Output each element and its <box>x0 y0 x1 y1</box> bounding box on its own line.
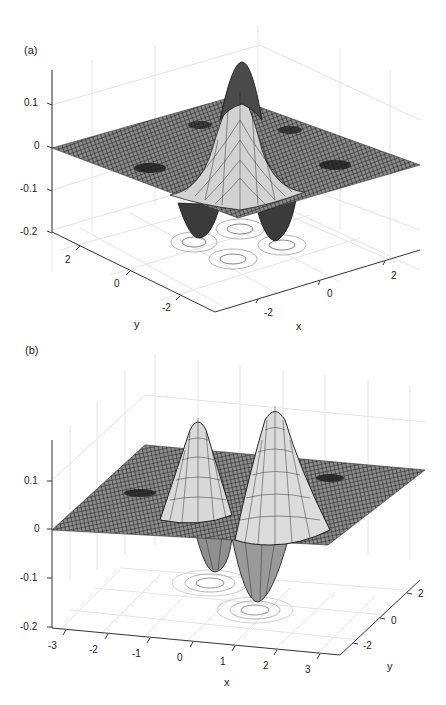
panel-b-ztick-0.1: 0.1 <box>24 475 38 486</box>
panel-b-ytick-2: 2 <box>418 588 424 599</box>
panel-b-ztick--0.1: -0.1 <box>20 572 37 583</box>
panel-b-xtick--3: -3 <box>48 640 57 651</box>
panel-b: (b) 0.1 0 -0.1 -0.2 -3 -2 -1 0 1 2 3 x 2… <box>0 340 446 705</box>
panel-a-ztick--0.1: -0.1 <box>20 183 37 194</box>
panel-b-ztick--0.2: -0.2 <box>20 621 37 632</box>
panel-a: (a) 0.1 0 -0.1 -0.2 2 0 -2 y -2 0 2 x <box>0 0 446 340</box>
panel-b-xtick-1: 1 <box>220 656 226 667</box>
panel-a-ylabel: y <box>134 318 140 330</box>
panel-a-ztick-0.1: 0.1 <box>24 97 38 108</box>
panel-b-xtick-2: 2 <box>263 660 269 671</box>
panel-a-ytick-0: 0 <box>114 278 120 289</box>
panel-a-ytick--2: -2 <box>162 302 171 313</box>
panel-a-xtick-0: 0 <box>327 288 333 299</box>
panel-a-ztick--0.2: -0.2 <box>20 226 37 237</box>
panel-b-xtick--1: -1 <box>132 648 141 659</box>
panel-b-label: (b) <box>25 344 38 356</box>
panel-a-xtick-2: 2 <box>391 270 397 281</box>
panel-b-xtick-0: 0 <box>177 652 183 663</box>
panel-a-label: (a) <box>24 44 37 56</box>
panel-a-plot <box>0 0 446 340</box>
panel-b-plot <box>0 340 446 705</box>
panel-b-ytick--2: -2 <box>363 640 372 651</box>
panel-b-xlabel: x <box>224 676 230 688</box>
panel-a-ztick-0: 0 <box>34 140 40 151</box>
panel-a-ytick-2: 2 <box>65 254 71 265</box>
panel-b-ztick-0: 0 <box>34 523 40 534</box>
panel-a-xtick--2: -2 <box>264 307 273 318</box>
panel-b-ylabel: y <box>387 660 393 672</box>
panel-b-xtick--2: -2 <box>89 644 98 655</box>
panel-b-ytick-0: 0 <box>391 615 397 626</box>
panel-b-well-right <box>232 538 288 602</box>
panel-b-xtick-3: 3 <box>305 664 311 675</box>
panel-a-xlabel: x <box>296 320 302 332</box>
